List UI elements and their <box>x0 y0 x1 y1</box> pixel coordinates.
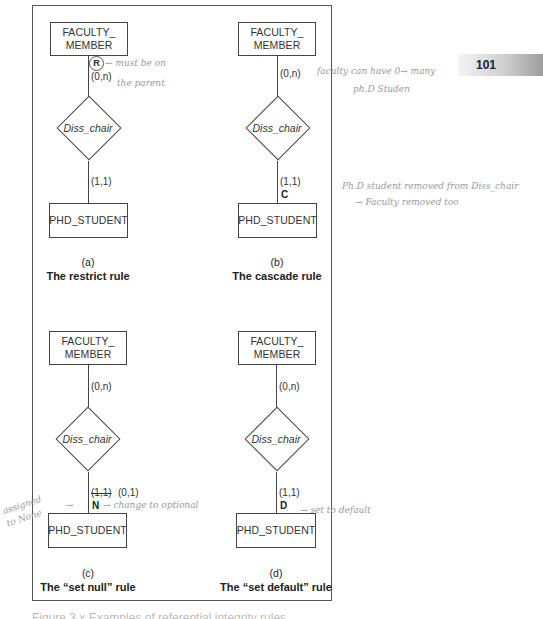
rule-marker-restrict: R <box>89 56 104 71</box>
panel-label: (d) <box>201 567 351 579</box>
relationship-label: Diss_chair <box>48 122 128 134</box>
panel-label: (c) <box>13 567 163 579</box>
rule-marker-set-null: N <box>92 500 99 511</box>
figure-caption: Figure 3.x Examples of referential integ… <box>32 611 292 619</box>
handwritten-note: Ph.D student removed from Diss_chair <box>342 181 518 191</box>
panel-title: The “set null” rule <box>8 581 168 593</box>
connector-line <box>88 365 89 407</box>
relationship-label: Diss_chair <box>237 122 317 134</box>
child-cardinality: (1,1) <box>280 176 301 187</box>
rule-marker-set-default: D <box>280 500 287 511</box>
relationship-label: Diss_chair <box>236 433 316 445</box>
relationship-label: Diss_chair <box>47 433 127 445</box>
entity-faculty-member: FACULTY_ MEMBER <box>50 22 128 56</box>
connector-line <box>88 472 89 513</box>
panel-title: The cascade rule <box>197 270 357 282</box>
handwritten-note: faculty can have 0→ many <box>317 66 435 76</box>
handwritten-note: the parent <box>117 78 165 88</box>
handwritten-note: ← must be on <box>105 58 166 68</box>
panel-title: The “set default” rule <box>196 581 356 593</box>
connector-line <box>88 161 89 203</box>
figure-frame <box>32 5 332 601</box>
entity-phd-student: PHD_STUDENT <box>48 513 127 548</box>
entity-phd-student: PHD_STUDENT <box>49 203 128 238</box>
parent-cardinality: (0,n) <box>280 68 301 79</box>
panel-label: (a) <box>13 256 163 268</box>
connector-line <box>277 56 278 96</box>
handwritten-note: → <box>66 500 74 510</box>
child-cardinality: (1,1) <box>279 487 300 498</box>
rule-marker-cascade: C <box>281 189 288 200</box>
entity-phd-student: PHD_STUDENT <box>236 513 316 548</box>
panel-title: The restrict rule <box>8 270 168 282</box>
connector-line <box>276 472 277 513</box>
parent-cardinality: (0,n) <box>91 381 112 392</box>
child-cardinality: (0,1) <box>118 487 139 498</box>
parent-cardinality: (0,n) <box>279 381 300 392</box>
handwritten-note: ph.D Studen <box>353 84 410 94</box>
child-cardinality-struck: (1,1) <box>91 487 112 498</box>
connector-line <box>277 161 278 203</box>
entity-faculty-member: FACULTY_ MEMBER <box>238 22 316 56</box>
handwritten-note: → set to default <box>300 505 371 515</box>
child-cardinality: (1,1) <box>91 176 112 187</box>
connector-line <box>276 365 277 407</box>
entity-faculty-member: FACULTY_ MEMBER <box>49 331 127 365</box>
panel-label: (b) <box>202 256 352 268</box>
entity-faculty-member: FACULTY_ MEMBER <box>238 331 316 365</box>
handwritten-note: → Faculty removed too <box>355 197 459 207</box>
parent-cardinality: (0,n) <box>91 71 112 82</box>
page-number-badge: 101 <box>458 54 543 76</box>
handwritten-note: → change to optional <box>103 500 198 510</box>
entity-phd-student: PHD_STUDENT <box>238 203 317 238</box>
